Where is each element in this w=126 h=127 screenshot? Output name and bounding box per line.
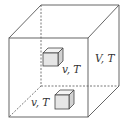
- subsystem-lower-label: v, T: [31, 96, 50, 108]
- subsystem-cube-upper: [43, 48, 63, 66]
- container-top-right-edge: [88, 5, 119, 38]
- container-bottom-right-edge: [88, 86, 119, 117]
- thermodynamic-box-diagram: v, T v, T V, T: [0, 0, 126, 127]
- subsystem-cube-lower: [55, 90, 74, 109]
- container-top-left-edge: [9, 5, 41, 38]
- subsystem-lower-front-face: [55, 95, 69, 109]
- container-label: V, T: [95, 52, 115, 64]
- subsystem-upper-front-face: [43, 53, 58, 66]
- subsystem-upper-label: v, T: [62, 63, 81, 75]
